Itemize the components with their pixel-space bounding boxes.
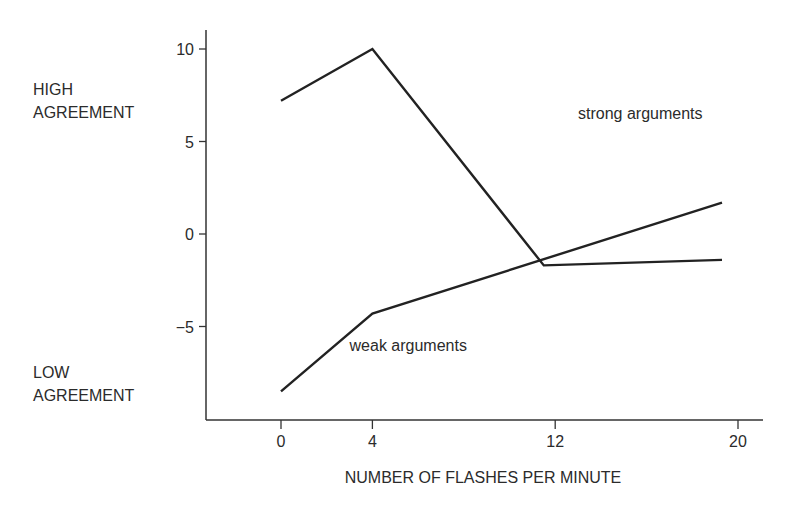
- x-tick-label: 4: [368, 433, 377, 450]
- line-chart: 1050−5 041220 HIGH AGREEMENT LOW AGREEME…: [0, 0, 793, 507]
- series-labels: strong argumentsweak arguments: [349, 105, 703, 353]
- x-axis-label: NUMBER OF FLASHES PER MINUTE: [345, 469, 621, 486]
- series-label-weak-arguments: weak arguments: [349, 337, 467, 354]
- y-annotation-high-line1: HIGH: [33, 81, 73, 98]
- y-annotation-high-line2: AGREEMENT: [33, 104, 135, 121]
- y-tick-label: −5: [176, 319, 194, 336]
- y-ticks: 1050−5: [176, 41, 206, 336]
- series-line-weak-arguments: [281, 203, 722, 392]
- y-tick-label: 0: [185, 226, 194, 243]
- x-tick-label: 20: [729, 433, 747, 450]
- x-tick-label: 0: [277, 433, 286, 450]
- series-label-strong-arguments: strong arguments: [578, 105, 703, 122]
- x-ticks: 041220: [277, 420, 747, 450]
- y-annotation-low-line1: LOW: [33, 364, 70, 381]
- y-annotation-low: LOW AGREEMENT: [33, 364, 135, 404]
- x-tick-label: 12: [546, 433, 564, 450]
- y-annotation-low-line2: AGREEMENT: [33, 387, 135, 404]
- y-tick-label: 5: [185, 134, 194, 151]
- y-annotation-high: HIGH AGREEMENT: [33, 81, 135, 121]
- series-line-strong-arguments: [281, 49, 722, 265]
- axes: 1050−5 041220: [176, 30, 763, 450]
- y-tick-label: 10: [176, 41, 194, 58]
- series-lines: [281, 49, 722, 391]
